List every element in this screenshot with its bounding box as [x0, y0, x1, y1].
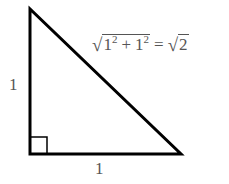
sqrt-symbol: √: [92, 35, 102, 54]
hypotenuse-formula: √12+12=√2: [92, 34, 189, 53]
radical-left: √12+12: [92, 34, 150, 53]
plus-sign: +: [117, 35, 135, 54]
radicand-a: 1: [103, 35, 112, 54]
sqrt-symbol: √: [168, 35, 178, 54]
radical-right: √2: [168, 34, 189, 53]
equals-sign: =: [150, 35, 168, 54]
right-angle-marker: [30, 137, 47, 154]
bottom-leg-label: 1: [95, 160, 104, 177]
radicand-b: 1: [135, 35, 144, 54]
right-triangle: [30, 9, 181, 154]
left-leg-label: 1: [9, 76, 18, 93]
exponent-b: 2: [144, 33, 150, 45]
triangle-figure: [0, 0, 229, 184]
result-radicand: 2: [178, 34, 189, 53]
